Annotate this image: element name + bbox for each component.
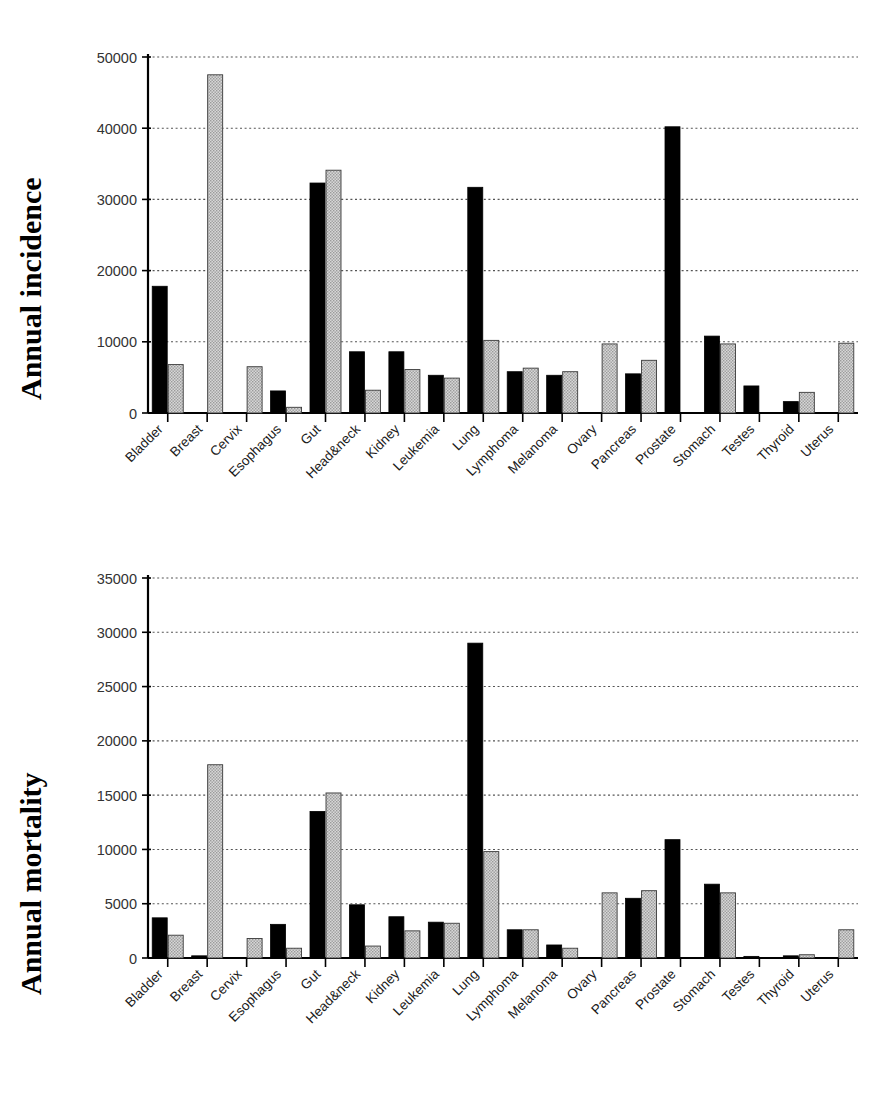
svg-text:Testes: Testes <box>719 421 757 459</box>
bar-male <box>468 187 483 413</box>
bar-male <box>704 336 719 413</box>
bar-male <box>783 956 798 958</box>
bar-female <box>444 378 459 413</box>
bar-female <box>287 407 302 413</box>
bar-female <box>247 367 262 413</box>
chart-incidence: 01000020000300004000050000BladderBreastC… <box>0 0 881 540</box>
bar-male <box>547 375 562 413</box>
bar-female <box>799 955 814 958</box>
bar-male <box>665 840 680 958</box>
bar-female <box>484 340 499 413</box>
y-tick-label: 50000 <box>97 50 137 66</box>
svg-text:Ovary: Ovary <box>564 966 600 1002</box>
bar-male <box>744 956 759 958</box>
bar-female <box>523 930 538 958</box>
bar-male <box>192 956 207 958</box>
y-tick-label: 5000 <box>105 896 137 912</box>
y-tick-label: 10000 <box>97 842 137 858</box>
bar-female <box>208 75 223 413</box>
bar-female <box>365 946 380 958</box>
bar-male <box>547 945 562 958</box>
svg-text:Cervix: Cervix <box>207 966 245 1004</box>
bar-female <box>287 948 302 958</box>
bar-female <box>799 392 814 413</box>
svg-text:Stomach: Stomach <box>670 967 718 1015</box>
chart-panel-mortality: Annual mortality 05000100001500020000250… <box>0 540 881 1070</box>
x-tick-label: Stomach <box>670 422 718 470</box>
x-tick-label: Stomach <box>670 967 718 1015</box>
bar-female <box>247 938 262 958</box>
figure-container: Annual incidence 01000020000300004000050… <box>0 0 881 1109</box>
bar-male <box>349 905 364 958</box>
svg-text:Lung: Lung <box>450 422 482 454</box>
bar-male <box>626 374 641 413</box>
svg-text:Stomach: Stomach <box>670 422 718 470</box>
bar-male <box>389 352 404 413</box>
x-tick-label: Thyroid <box>755 422 797 464</box>
bar-female <box>720 344 735 413</box>
bar-female <box>208 765 223 958</box>
bar-female <box>405 370 420 413</box>
bar-female <box>365 390 380 413</box>
chart-panel-incidence: Annual incidence 01000020000300004000050… <box>0 0 881 540</box>
bar-male <box>389 917 404 958</box>
y-tick-label: 30000 <box>97 625 137 641</box>
x-tick-label: Testes <box>719 421 757 459</box>
svg-text:Uterus: Uterus <box>798 966 837 1005</box>
x-tick-label: Testes <box>719 966 757 1004</box>
x-tick-label: Breast <box>167 421 205 459</box>
bar-female <box>444 923 459 958</box>
bar-female <box>839 930 854 958</box>
svg-text:Cervix: Cervix <box>207 421 245 459</box>
bar-male <box>152 918 167 958</box>
bar-male <box>704 884 719 958</box>
bar-male <box>783 402 798 413</box>
svg-text:Gut: Gut <box>298 421 324 447</box>
svg-text:Bladder: Bladder <box>122 421 166 465</box>
bar-male <box>349 352 364 413</box>
bar-female <box>602 893 617 958</box>
bar-female <box>405 931 420 958</box>
y-tick-label: 10000 <box>97 334 137 350</box>
bar-female <box>602 344 617 413</box>
x-tick-label: Uterus <box>798 421 837 460</box>
svg-text:Testes: Testes <box>719 966 757 1004</box>
bar-male <box>507 372 522 413</box>
svg-text:Gut: Gut <box>298 966 324 992</box>
bar-female <box>563 948 578 958</box>
bar-male <box>271 924 286 958</box>
svg-text:Thyroid: Thyroid <box>755 422 797 464</box>
bar-female <box>642 360 657 413</box>
svg-text:Breast: Breast <box>167 421 205 459</box>
x-tick-label: Bladder <box>122 421 166 465</box>
y-tick-label: 0 <box>129 951 137 967</box>
x-tick-label: Ovary <box>564 421 600 457</box>
svg-text:Lung: Lung <box>450 967 482 999</box>
bar-male <box>310 183 325 413</box>
svg-text:Uterus: Uterus <box>798 421 837 460</box>
bar-female <box>168 365 183 413</box>
x-tick-label: Gut <box>298 421 324 447</box>
y-tick-label: 30000 <box>97 192 137 208</box>
bar-male <box>428 922 443 958</box>
x-tick-label: Cervix <box>207 966 245 1004</box>
svg-text:Breast: Breast <box>167 966 205 1004</box>
svg-text:Ovary: Ovary <box>564 421 600 457</box>
x-tick-label: Lung <box>450 967 482 999</box>
bar-female <box>326 793 341 958</box>
y-tick-label: 40000 <box>97 121 137 137</box>
bar-male <box>744 386 759 413</box>
x-tick-label: Bladder <box>122 966 166 1010</box>
y-tick-label: 25000 <box>97 679 137 695</box>
x-tick-label: Uterus <box>798 966 837 1005</box>
y-tick-label: 0 <box>129 406 137 422</box>
y-tick-label: 20000 <box>97 263 137 279</box>
bar-female <box>720 893 735 958</box>
y-tick-label: 20000 <box>97 733 137 749</box>
bar-female <box>642 891 657 958</box>
bar-female <box>484 852 499 958</box>
bar-female <box>563 372 578 413</box>
x-tick-label: Breast <box>167 966 205 1004</box>
bar-female <box>839 343 854 413</box>
x-tick-label: Gut <box>298 966 324 992</box>
